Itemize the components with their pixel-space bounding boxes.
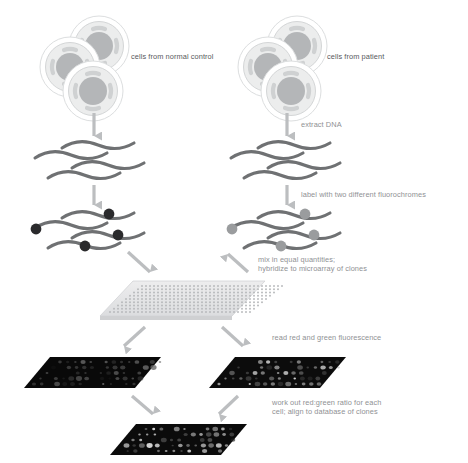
- microarray-slide: [100, 281, 283, 320]
- fluorochrome-dot-dark: [104, 209, 115, 220]
- fluorochrome-dot-dark: [80, 241, 91, 252]
- arrow-ratio-right: [219, 396, 238, 414]
- cgh-workflow-diagram: [0, 0, 468, 463]
- fluorochrome-dot-dark: [31, 224, 42, 235]
- fluorochrome-dot-light: [227, 224, 238, 235]
- label-cells-patient: cells from patient: [327, 52, 384, 62]
- cell-cluster-normal-control: [40, 16, 129, 121]
- fluorochrome-dot-light: [309, 230, 320, 241]
- fluorochrome-dot-dark: [113, 230, 124, 241]
- label-ratio-line2: cell; align to database of clones: [272, 407, 378, 417]
- label-fluorochromes: label with two different fluorochromes: [301, 190, 426, 200]
- cell-cluster-patient: [238, 16, 327, 121]
- merged-scan-panel: [110, 424, 247, 455]
- label-mix-line2: hybridize to microarray of clones: [258, 264, 367, 274]
- labeled-dna-left: [31, 209, 144, 252]
- arrow-ratio-left: [132, 396, 153, 414]
- scan-panel-red: [24, 357, 161, 388]
- dna-strands-left: [35, 142, 144, 179]
- label-read-fluorescence: read red and green fluorescence: [272, 333, 381, 343]
- arrow-mix-right: [228, 254, 248, 272]
- label-cells-normal-control: cells from normal control: [131, 52, 214, 62]
- arrow-mix-left: [128, 252, 150, 272]
- fluorochrome-dot-light: [300, 209, 311, 220]
- label-extract-dna: extract DNA: [301, 120, 342, 130]
- labeled-dna-right: [227, 209, 340, 252]
- arrow-read-left: [124, 327, 145, 346]
- fluorochrome-dot-light: [276, 241, 287, 252]
- dna-strands-right: [231, 142, 340, 179]
- arrow-read-right: [222, 327, 243, 346]
- scan-panel-green: [209, 357, 346, 388]
